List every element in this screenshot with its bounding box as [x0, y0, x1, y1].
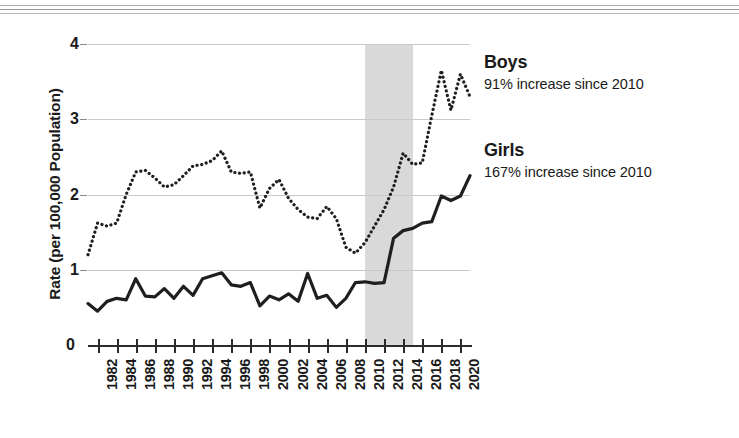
- y-tick-mark-1: [80, 270, 87, 271]
- x-tick-1998: [250, 339, 252, 353]
- x-tick-2002: [289, 339, 291, 353]
- x-tick-1982: [98, 339, 100, 353]
- x-tick-label-1992: 1992: [199, 359, 215, 390]
- y-tick-mark-2: [80, 195, 87, 196]
- y-axis-zero-label: 0: [66, 336, 75, 354]
- x-tick-2006: [327, 339, 329, 353]
- x-tick-label-2016: 2016: [428, 359, 444, 390]
- x-tick-label-1988: 1988: [161, 359, 177, 390]
- legend-boys-title: Boys: [484, 52, 734, 73]
- y-tick-label-4: 4: [70, 35, 79, 53]
- x-tick-1986: [136, 339, 138, 353]
- x-tick-label-2018: 2018: [447, 359, 463, 390]
- y-tick-label-2: 2: [70, 186, 79, 204]
- plot-area: 1234: [88, 44, 470, 345]
- x-tick-label-2012: 2012: [390, 359, 406, 390]
- legend-entry-girls: Girls 167% increase since 2010: [484, 140, 734, 182]
- y-axis-title: Rate (per 100,000 Population): [46, 44, 64, 344]
- x-tick-2004: [308, 339, 310, 353]
- x-tick-label-2002: 2002: [295, 359, 311, 390]
- y-tick-label-1: 1: [70, 261, 79, 279]
- x-tick-2012: [384, 339, 386, 353]
- series-plot: [88, 44, 470, 345]
- x-tick-label-1990: 1990: [180, 359, 196, 390]
- legend-girls-subtitle: 167% increase since 2010: [484, 163, 734, 182]
- x-tick-1988: [155, 339, 157, 353]
- x-tick-1992: [193, 339, 195, 353]
- x-tick-1990: [174, 339, 176, 353]
- x-tick-label-2014: 2014: [409, 359, 425, 390]
- x-tick-1984: [117, 339, 119, 353]
- x-tick-label-2004: 2004: [314, 359, 330, 390]
- line-chart-figure: Rate (per 100,000 Population) 1234 0 198…: [0, 0, 739, 438]
- x-tick-1994: [212, 339, 214, 353]
- x-tick-2016: [422, 339, 424, 353]
- x-tick-2010: [365, 339, 367, 353]
- x-tick-label-2000: 2000: [275, 359, 291, 390]
- x-tick-label-1986: 1986: [142, 359, 158, 390]
- x-tick-label-2020: 2020: [466, 359, 482, 390]
- x-tick-label-1982: 1982: [104, 359, 120, 390]
- series-line-girls: [88, 176, 470, 311]
- x-tick-label-1996: 1996: [237, 359, 253, 390]
- x-tick-2000: [269, 339, 271, 353]
- x-tick-label-1998: 1998: [256, 359, 272, 390]
- legend-boys-subtitle: 91% increase since 2010: [484, 75, 734, 94]
- x-tick-label-1984: 1984: [123, 359, 139, 390]
- y-tick-mark-4: [80, 44, 87, 45]
- x-tick-2008: [346, 339, 348, 353]
- x-tick-2014: [403, 339, 405, 353]
- x-tick-label-2006: 2006: [333, 359, 349, 390]
- x-tick-1996: [231, 339, 233, 353]
- x-tick-2020: [460, 339, 462, 353]
- x-axis: [88, 345, 472, 347]
- x-tick-2018: [441, 339, 443, 353]
- x-tick-label-2008: 2008: [352, 359, 368, 390]
- legend-girls-title: Girls: [484, 140, 734, 161]
- x-tick-label-2010: 2010: [371, 359, 387, 390]
- y-tick-label-3: 3: [70, 110, 79, 128]
- legend-entry-boys: Boys 91% increase since 2010: [484, 52, 734, 94]
- x-tick-label-1994: 1994: [218, 359, 234, 390]
- y-tick-mark-3: [80, 119, 87, 120]
